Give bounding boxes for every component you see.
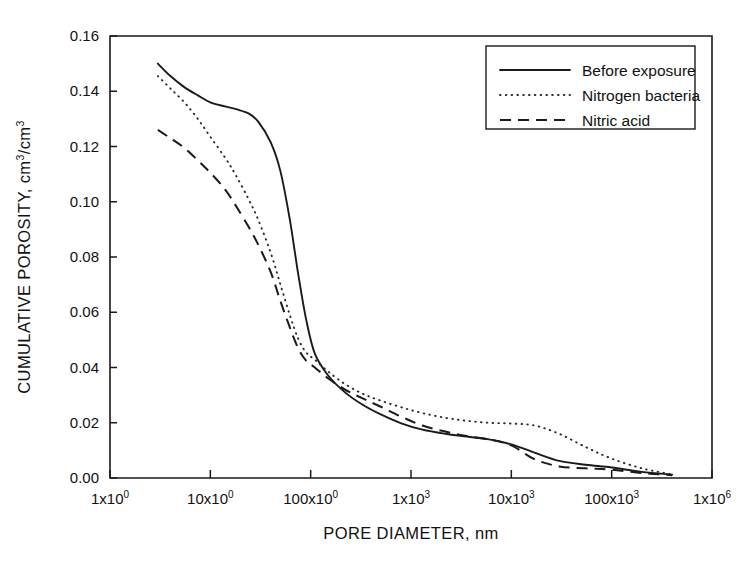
y-tick-label: 0.16 — [70, 27, 99, 44]
x-tick-label: 10x100 — [187, 489, 234, 507]
y-tick-label: 0.02 — [70, 414, 99, 431]
x-tick-label: 100x100 — [283, 489, 338, 507]
y-tick-label: 0.14 — [70, 82, 99, 99]
y-tick-label: 0.10 — [70, 193, 99, 210]
y-axis-title-mid: /cm — [15, 127, 33, 155]
chart-legend: Before exposureNitrogen bacteriaNitric a… — [486, 46, 700, 129]
porosity-line-chart: 0.000.020.040.060.080.100.120.140.16 1x1… — [0, 0, 750, 561]
y-axis-tick-labels: 0.000.020.040.060.080.100.120.140.16 — [70, 27, 99, 486]
x-axis-title: PORE DIAMETER, nm — [323, 524, 499, 542]
legend-label: Nitrogen bacteria — [582, 87, 700, 104]
y-tick-label: 0.00 — [70, 469, 99, 486]
y-tick-label: 0.06 — [70, 303, 99, 320]
y-tick-label: 0.08 — [70, 248, 99, 265]
x-tick-label: 100x103 — [584, 489, 639, 507]
y-axis-title-sup2: 3 — [14, 120, 26, 126]
legend-label: Nitric acid — [582, 112, 650, 129]
legend-label: Before exposure — [582, 62, 696, 79]
svg-text:CUMULATIVE POROSITY, cm3/cm3: CUMULATIVE POROSITY, cm3/cm3 — [14, 120, 33, 394]
y-axis-title-main: CUMULATIVE POROSITY, cm — [15, 161, 33, 394]
x-tick-label: 10x103 — [488, 489, 535, 507]
chart-figure: 0.000.020.040.060.080.100.120.140.16 1x1… — [0, 0, 750, 561]
y-tick-label: 0.04 — [70, 359, 99, 376]
y-axis-title: CUMULATIVE POROSITY, cm3/cm3 — [14, 120, 33, 394]
y-tick-label: 0.12 — [70, 138, 99, 155]
